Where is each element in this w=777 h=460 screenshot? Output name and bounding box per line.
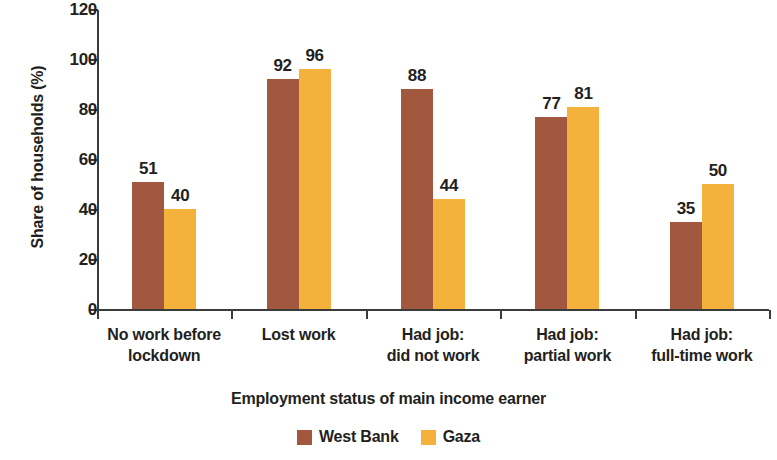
bar [433,199,465,309]
y-axis-tick-label: 0 [51,300,97,320]
x-axis-tick-mark [769,310,771,319]
x-axis-category-label: Had job:partial work [494,324,640,366]
category-label-line: Had job: [494,324,640,345]
x-axis-tick-mark [97,310,99,319]
bar [535,117,567,310]
x-axis-category-label: Lost work [225,324,371,345]
legend-label: Gaza [443,428,480,446]
y-axis-tick-label: 100 [51,50,97,70]
bar [267,79,299,309]
x-axis-category-label: No work beforelockdown [91,324,237,366]
y-axis-tick-label: 80 [51,100,97,120]
category-label-line: Had job: [629,324,775,345]
category-label-line: did not work [360,345,506,366]
x-axis-tick-mark [500,310,502,319]
legend-item[interactable]: Gaza [421,428,480,446]
x-axis-line [97,309,769,311]
bar-chart: Share of households (%) 020406080100120 … [0,0,777,460]
bar [164,209,196,309]
chart-legend: West BankGaza [0,428,777,446]
bar-value-label: 35 [666,199,706,219]
bar-value-label: 51 [128,159,168,179]
category-label-line: partial work [494,345,640,366]
bar [401,89,433,309]
y-axis-tick-label: 120 [51,0,97,20]
bar [299,69,331,309]
legend-label: West Bank [319,428,399,446]
legend-swatch-icon [297,430,312,445]
x-axis-category-label: Had job:full-time work [629,324,775,366]
bar-value-label: 88 [397,66,437,86]
y-axis-tick-label: 20 [51,250,97,270]
bar [702,184,734,309]
legend-swatch-icon [421,430,436,445]
category-label-line: Had job: [360,324,506,345]
x-axis-tick-mark [635,310,637,319]
category-label-line: No work before [91,324,237,345]
legend-item[interactable]: West Bank [297,428,399,446]
x-axis-tick-mark [231,310,233,319]
bar [567,107,599,310]
bar-value-label: 81 [563,84,603,104]
bar-value-label: 50 [698,161,738,181]
y-axis-title: Share of households (%) [29,27,47,287]
bar-value-label: 40 [160,186,200,206]
y-axis-tick-label: 40 [51,200,97,220]
y-axis-tick-label: 60 [51,150,97,170]
category-label-line: Lost work [225,324,371,345]
category-label-line: lockdown [91,345,237,366]
plot-area: 020406080100120 51409296884477813550 [97,10,769,310]
x-axis-tick-mark [366,310,368,319]
x-axis-title: Employment status of main income earner [0,390,777,408]
bar-value-label: 96 [295,46,335,66]
bar [670,222,702,310]
category-label-line: full-time work [629,345,775,366]
x-axis-category-label: Had job:did not work [360,324,506,366]
bar-value-label: 44 [429,176,469,196]
